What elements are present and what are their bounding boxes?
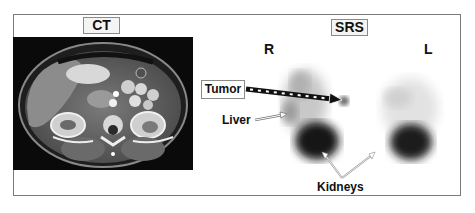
kidneys-label: Kidneys	[317, 180, 364, 194]
tumor-label: Tumor	[201, 80, 245, 99]
srs-scan-graphic	[0, 0, 475, 213]
liver-label: Liver	[222, 113, 251, 127]
